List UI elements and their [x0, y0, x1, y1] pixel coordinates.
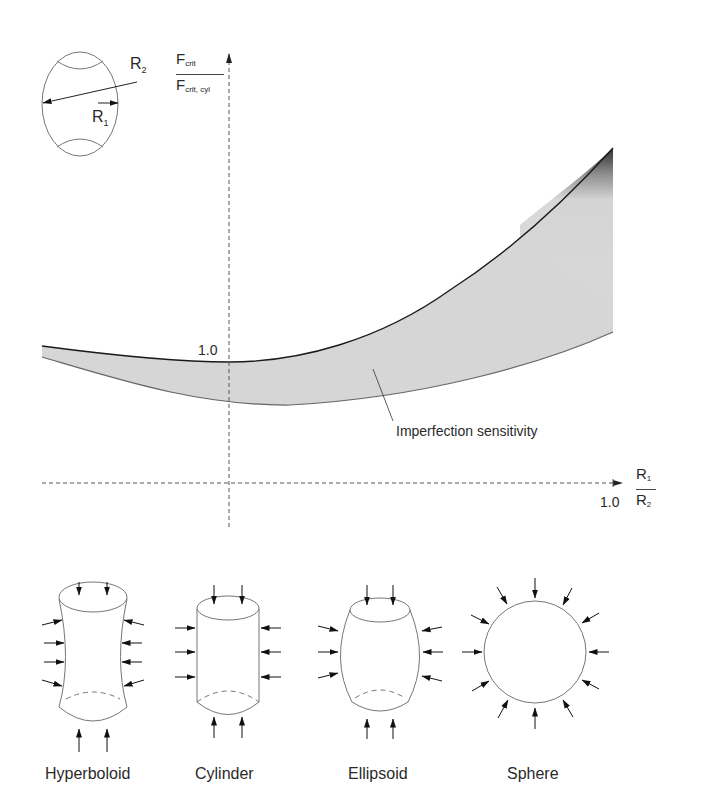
imperfection-sensitivity-label: Imperfection sensitivity	[396, 423, 538, 439]
shape-label-ellipsoid: Ellipsoid	[348, 765, 408, 783]
shape-label-cylinder: Cylinder	[195, 765, 254, 783]
x-axis-label: R1 R2	[636, 466, 656, 513]
inset-label-r1: R1	[92, 108, 109, 128]
cylinder-illustration	[175, 585, 281, 738]
imperfection-band	[42, 148, 613, 405]
y-tick-label: 1.0	[198, 342, 217, 358]
shape-label-sphere: Sphere	[507, 765, 559, 783]
shape-label-hyperboloid: Hyperboloid	[45, 765, 130, 783]
hyperboloid-illustration	[42, 582, 144, 752]
sphere-illustration	[462, 578, 609, 729]
inset-shell-diagram	[42, 52, 137, 156]
inset-label-r2: R2	[130, 55, 147, 75]
y-axis-label: Fcrit Fcrit, cyl	[176, 51, 224, 98]
x-tick-label: 1.0	[600, 494, 619, 510]
ellipsoid-illustration	[318, 585, 443, 739]
